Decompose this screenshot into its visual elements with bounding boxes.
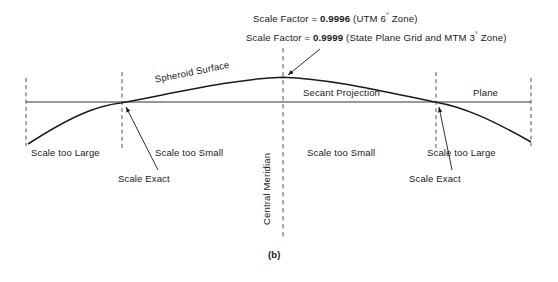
leader-line-scale-exact-right	[439, 107, 452, 170]
label-central-meridian: Central Meridian	[262, 153, 272, 225]
figure-secant-projection-diagram: Scale Factor = 0.9996 (UTM 6° Zone) Scal…	[0, 0, 558, 282]
callout-spg-suffix-after-degree: Zone)	[478, 32, 507, 43]
callout-scale-factor-state-plane: Scale Factor = 0.9999 (State Plane Grid …	[246, 33, 507, 43]
label-scale-too-small-left: Scale too Small	[155, 148, 223, 158]
callout-spg-prefix: Scale Factor =	[246, 32, 313, 43]
leader-line-scale-exact-left	[126, 107, 158, 170]
callout-utm-suffix-after-degree: Zone)	[389, 13, 418, 24]
leader-line-scale-factor	[288, 49, 320, 75]
label-scale-exact-left: Scale Exact	[118, 174, 170, 184]
label-scale-too-large-right: Scale too Large	[427, 148, 496, 158]
callout-utm-value: 0.9996	[320, 13, 350, 24]
label-secant-projection: Secant Projection	[303, 88, 380, 98]
figure-caption: (b)	[268, 250, 281, 260]
label-scale-exact-right: Scale Exact	[409, 174, 461, 184]
label-scale-too-large-left: Scale too Large	[31, 148, 100, 158]
spheroid-surface-curve	[28, 77, 531, 144]
callout-utm-prefix: Scale Factor =	[253, 13, 320, 24]
callout-scale-factor-utm: Scale Factor = 0.9996 (UTM 6° Zone)	[253, 14, 418, 24]
label-scale-too-small-right: Scale too Small	[307, 148, 375, 158]
callout-spg-suffix-before-degree: (State Plane Grid and MTM 3	[343, 32, 475, 43]
callout-utm-suffix-before-degree: (UTM 6	[350, 13, 386, 24]
callout-spg-value: 0.9999	[313, 32, 343, 43]
label-plane: Plane	[473, 88, 498, 98]
